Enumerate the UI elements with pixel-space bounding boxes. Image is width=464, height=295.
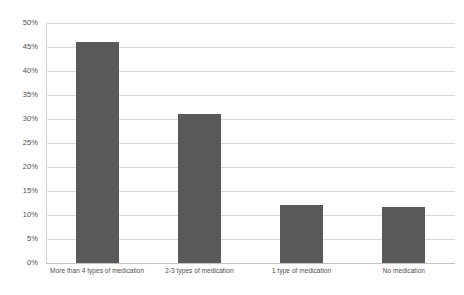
y-tick-label: 35% xyxy=(23,91,38,99)
x-axis: More than 4 types of medication2-3 types… xyxy=(46,267,455,283)
y-tick-label: 20% xyxy=(23,163,38,171)
y-tick-label: 30% xyxy=(23,115,38,123)
bar xyxy=(76,42,119,263)
y-axis: 0%5%10%15%20%25%30%35%40%45%50% xyxy=(0,0,42,295)
bar xyxy=(178,114,221,263)
bar xyxy=(280,205,323,263)
y-tick-label: 5% xyxy=(27,235,38,243)
y-tick-label: 15% xyxy=(23,187,38,195)
y-tick-label: 50% xyxy=(23,19,38,27)
x-tick-label: 2-3 types of medication xyxy=(165,267,233,274)
y-tick-label: 40% xyxy=(23,67,38,75)
y-tick-label: 0% xyxy=(27,259,38,267)
y-tick-label: 10% xyxy=(23,211,38,219)
bar-chart: 0%5%10%15%20%25%30%35%40%45%50% More tha… xyxy=(0,0,464,295)
x-tick-label: No medication xyxy=(383,267,425,274)
x-tick-label: 1 type of medication xyxy=(272,267,331,274)
y-tick-label: 25% xyxy=(23,139,38,147)
bar xyxy=(382,207,425,263)
x-tick-label: More than 4 types of medication xyxy=(50,267,144,274)
y-tick-label: 45% xyxy=(23,43,38,51)
bars-layer xyxy=(46,23,455,264)
